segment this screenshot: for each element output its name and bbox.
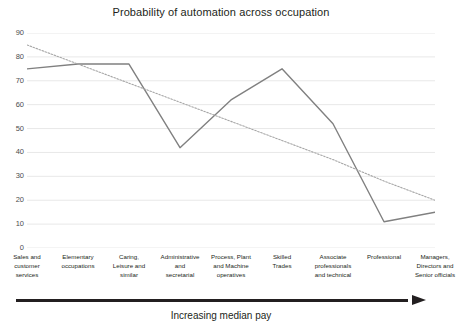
x-tick-label-line: Professional	[358, 253, 410, 262]
x-tick-label-line: Associate	[307, 253, 359, 262]
y-tick-label: 40	[0, 149, 24, 157]
x-tick-label-line: similar	[103, 271, 155, 280]
series-line	[27, 45, 435, 200]
y-tick-label: 10	[0, 220, 24, 228]
x-tick-label-line: Sales and	[1, 253, 53, 262]
y-tick-label: 90	[0, 29, 24, 37]
x-tick-label-line: customer	[1, 262, 53, 271]
x-tick-label-line: occupations	[52, 262, 104, 271]
x-tick-label-line: Trades	[256, 262, 308, 271]
y-tick-label: 50	[0, 125, 24, 133]
right-arrow-icon	[412, 295, 426, 305]
x-tick-label-line: services	[1, 271, 53, 280]
increasing-pay-arrow	[16, 295, 426, 307]
x-tick-label-line: Caring,	[103, 253, 155, 262]
y-tick-label: 60	[0, 101, 24, 109]
series-line	[27, 64, 435, 222]
x-axis: Sales andcustomerservicesElementaryoccup…	[27, 253, 435, 289]
y-tick-label: 70	[0, 77, 24, 85]
plot-area	[27, 33, 435, 248]
series-lines	[27, 33, 435, 248]
x-tick-label-line: Elementary	[52, 253, 104, 262]
x-tick-label-line: and Machine	[205, 262, 257, 271]
x-tick-label-line: Leisure and	[103, 262, 155, 271]
y-tick-label: 80	[0, 53, 24, 61]
y-tick-label: 20	[0, 196, 24, 204]
x-tick-label-line: professionals	[307, 262, 359, 271]
x-tick-label: Associateprofessionalsand technical	[307, 253, 359, 280]
x-tick-label: Sales andcustomerservices	[1, 253, 53, 280]
x-tick-label-line: Senior officials	[409, 271, 460, 280]
x-tick-label: SkilledTrades	[256, 253, 308, 271]
x-tick-label-line: Administrative	[154, 253, 206, 262]
x-tick-label-line: and technical	[307, 271, 359, 280]
x-tick-label-line: Skilled	[256, 253, 308, 262]
x-axis-caption: Increasing median pay	[0, 310, 442, 321]
y-tick-label: 0	[0, 244, 24, 252]
chart-title: Probability of automation across occupat…	[0, 6, 442, 18]
x-tick-label-line: Managers,	[409, 253, 460, 262]
x-tick-label: Process, Plantand Machineoperatives	[205, 253, 257, 280]
x-tick-label: Administrativeandsecretarial	[154, 253, 206, 280]
x-tick-label: Managers,Directors andSenior officials	[409, 253, 460, 280]
y-axis: 0102030405060708090	[0, 33, 24, 248]
x-tick-label-line: operatives	[205, 271, 257, 280]
y-tick-label: 30	[0, 173, 24, 181]
x-tick-label: Professional	[358, 253, 410, 262]
x-tick-label-line: Directors and	[409, 262, 460, 271]
arrow-shaft	[16, 299, 408, 302]
x-tick-label: Caring,Leisure andsimilar	[103, 253, 155, 280]
x-tick-label-line: secretarial	[154, 271, 206, 280]
x-tick-label: Elementaryoccupations	[52, 253, 104, 271]
x-tick-label-line: and	[154, 262, 206, 271]
x-tick-label-line: Process, Plant	[205, 253, 257, 262]
